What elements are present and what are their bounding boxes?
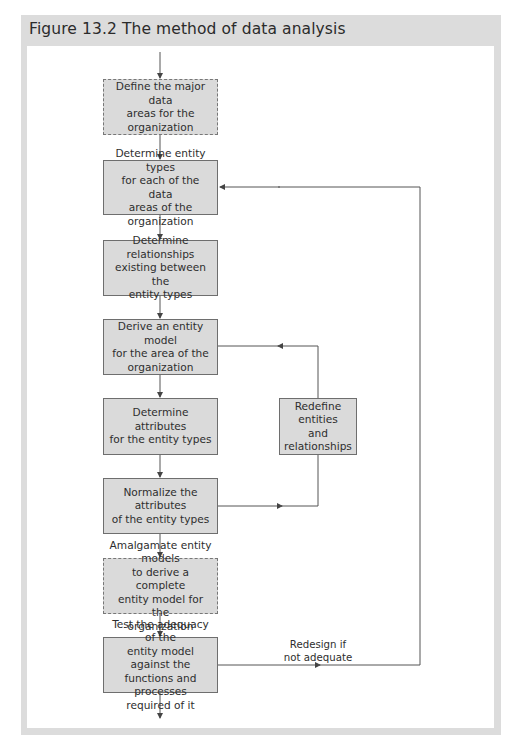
step-text: Determine relationships existing between… (108, 234, 213, 302)
loop-normalize-to-redefine (280, 455, 318, 506)
step-test-adequacy: Test the adequacy of the entity model ag… (103, 637, 218, 693)
step-determine-entity-types: Determine entity types for each of the d… (103, 160, 218, 215)
step-derive-entity-model: Derive an entity model for the area of t… (103, 319, 218, 375)
step-text: Determine entity types for each of the d… (108, 147, 213, 228)
step-text: Normalize the attributes of the entity t… (108, 486, 213, 527)
side-box-redefine: Redefine entities and relationships (279, 398, 357, 455)
step-amalgamate-models: Amalgamate entity models to derive a com… (103, 558, 218, 614)
side-box-text: Redefine entities and relationships (284, 400, 352, 454)
step-normalize-attributes: Normalize the attributes of the entity t… (103, 478, 218, 534)
connector-lines (0, 0, 515, 747)
step-define-data-areas: Define the major data areas for the orga… (103, 79, 218, 135)
step-determine-relationships: Determine relationships existing between… (103, 240, 218, 296)
step-text: Derive an entity model for the area of t… (108, 320, 213, 374)
step-text: Define the major data areas for the orga… (108, 80, 213, 134)
feedback-label: Redesign if not adequate (278, 638, 358, 664)
step-determine-attributes: Determine attributes for the entity type… (103, 398, 218, 455)
step-text: Determine attributes for the entity type… (108, 406, 213, 447)
step-text: Test the adequacy of the entity model ag… (108, 618, 213, 713)
flowchart: Define the major data areas for the orga… (0, 0, 515, 747)
